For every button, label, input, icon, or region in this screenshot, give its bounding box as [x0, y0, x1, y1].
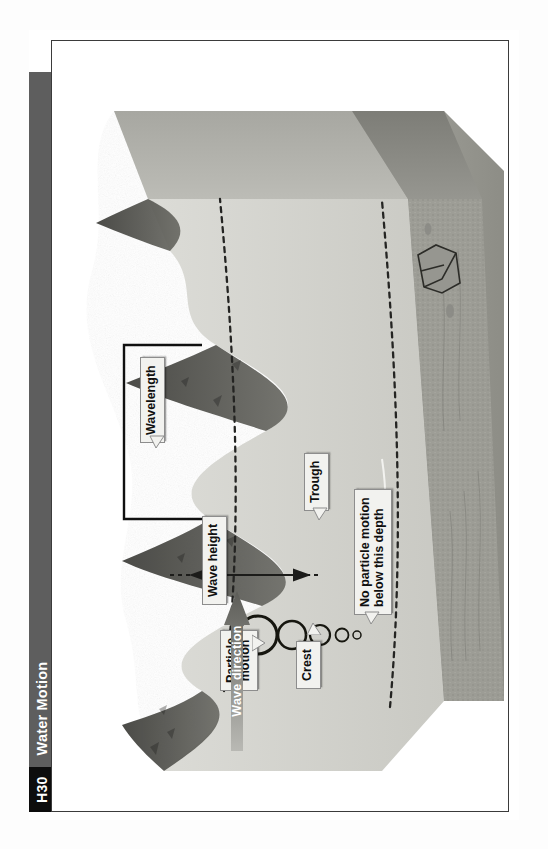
textbook-page: H30 Water Motion — [29, 30, 519, 820]
label-no-particle-motion-pointer — [362, 611, 382, 625]
label-particle-motion-pointer — [252, 633, 268, 653]
label-crest: Crest — [296, 641, 321, 689]
label-trough-pointer — [310, 507, 330, 521]
label-wave-height: Wave height — [202, 515, 227, 604]
wave-direction-label: Wave direction — [224, 591, 250, 751]
label-wavelength-pointer — [147, 435, 167, 449]
label-no-particle-motion: No particle motion below this depth — [354, 489, 392, 615]
label-crest-pointer — [304, 619, 324, 635]
label-wavelength: Wavelength — [140, 357, 165, 443]
label-trough: Trough — [304, 452, 329, 510]
screenshot-canvas: H30 Water Motion — [0, 0, 548, 849]
figure-wave-motion: Crest Wave height Trough Wavelength Part… — [52, 85, 507, 811]
wave-direction-arrow: Wave direction — [224, 591, 250, 751]
seafloor-rock — [418, 245, 460, 293]
